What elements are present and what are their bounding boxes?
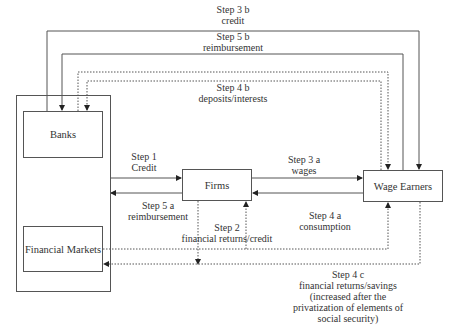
- banks-node: Banks: [23, 111, 103, 158]
- step3a-label: Step 3 a wages: [288, 154, 320, 176]
- diagram-canvas: Banks Financial Markets Firms Wage Earne…: [0, 0, 456, 335]
- financial-markets-label: Financial Markets: [25, 244, 101, 255]
- wage-earners-node: Wage Earners: [363, 170, 443, 202]
- firms-node: Firms: [182, 169, 252, 201]
- step2-label: Step 2 financial returns/credit: [182, 222, 273, 244]
- step4b-label: Step 4 b deposits/interests: [199, 82, 268, 104]
- step4c-label: Step 4 c financial returns/savings (incr…: [293, 269, 403, 324]
- banks-label: Banks: [50, 129, 76, 140]
- edge-step5b: [62, 54, 403, 170]
- firms-label: Firms: [205, 180, 230, 191]
- step5a-label: Step 5 a reimbursement: [128, 200, 188, 222]
- wage-earners-label: Wage Earners: [374, 181, 432, 192]
- step3b-label: Step 3 b credit: [217, 4, 250, 26]
- step5b-label: Step 5 b reimbursement: [203, 31, 263, 53]
- step1-label: Step 1 Credit: [131, 151, 156, 173]
- step4a-label: Step 4 a consumption: [299, 210, 351, 232]
- financial-markets-node: Financial Markets: [23, 226, 103, 272]
